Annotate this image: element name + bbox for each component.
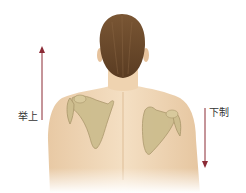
head-hair [100,14,145,78]
depression-arrow-icon [202,108,208,168]
figure-illustration [0,0,246,193]
scapula-movement-diagram: 举上 下制 [0,0,246,193]
elevation-label: 举上 [18,112,38,122]
depression-label: 下制 [209,108,229,118]
elevation-arrow-icon [39,46,45,120]
